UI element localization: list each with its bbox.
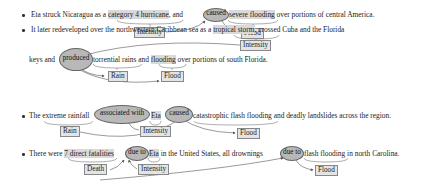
bullet — [22, 14, 25, 17]
argument-span[interactable]: flooding — [151, 55, 176, 64]
trigger-text: caused — [169, 109, 189, 117]
sentence-text: in north Carolina. — [345, 149, 399, 158]
label-intensity[interactable]: Intensity — [138, 164, 169, 175]
argument-span[interactable]: catastrophic flash flooding — [193, 111, 272, 120]
argument-span[interactable]: Eta — [149, 149, 159, 158]
label-rain[interactable]: Rain — [108, 71, 128, 82]
bullet — [22, 153, 25, 156]
trigger-node[interactable]: associated with — [94, 105, 150, 124]
argument-span[interactable]: Eta — [151, 111, 161, 120]
sentence-text: keys and — [29, 55, 55, 64]
trigger-text: produced — [63, 54, 90, 62]
bullet — [22, 29, 25, 32]
trigger-text: due to — [283, 148, 301, 156]
trigger-text: due to — [128, 148, 146, 156]
sentence-text: in the United States, all drownings — [159, 149, 263, 158]
trigger-node[interactable]: caused — [165, 106, 193, 123]
sentence-text: , and — [169, 10, 183, 19]
label-flood[interactable]: Flood — [237, 128, 260, 139]
sentence-text: over portions of central America. — [275, 10, 375, 19]
argument-span[interactable]: 7 direct fatalities — [64, 149, 114, 158]
trigger-node[interactable]: produced — [59, 48, 93, 71]
label-rain[interactable]: Rain — [60, 126, 80, 137]
trigger-text: associated with — [100, 109, 144, 117]
sentence-text: and — [136, 55, 150, 64]
argument-span[interactable]: flash flooding — [304, 149, 345, 158]
label-intensity[interactable]: Intensity — [240, 40, 271, 51]
sentence-text: The — [29, 111, 42, 120]
label-intensity[interactable]: Intensity — [140, 126, 171, 137]
sentence-text: , crossed Cuba and the Florida — [255, 25, 345, 34]
bullet — [22, 115, 25, 118]
sentence-text: over portions of south Florida. — [176, 55, 268, 64]
argument-span[interactable]: severe flooding — [229, 10, 275, 19]
sentence-text: It later redeveloped over the northweste… — [31, 25, 213, 34]
argument-span[interactable]: tropical storm — [213, 25, 254, 34]
trigger-text: caused — [206, 9, 226, 17]
sentence-text: Eta struck Nicaragua as a — [31, 10, 108, 19]
label-death[interactable]: Death — [84, 164, 107, 175]
trigger-node[interactable]: caused — [203, 8, 229, 22]
sentence-text: There were — [29, 149, 64, 158]
sentence-text: and deadly landslides across the region. — [272, 111, 391, 120]
label-flood[interactable]: Flood — [161, 71, 184, 82]
argument-span[interactable]: category 4 hurricane — [108, 10, 169, 19]
argument-span[interactable]: torrential rains — [93, 55, 136, 64]
argument-span[interactable]: extreme rainfall — [42, 111, 89, 120]
trigger-node[interactable]: due to — [280, 146, 304, 161]
label-flood[interactable]: Flood — [315, 165, 338, 176]
trigger-node[interactable]: due to — [125, 146, 149, 161]
